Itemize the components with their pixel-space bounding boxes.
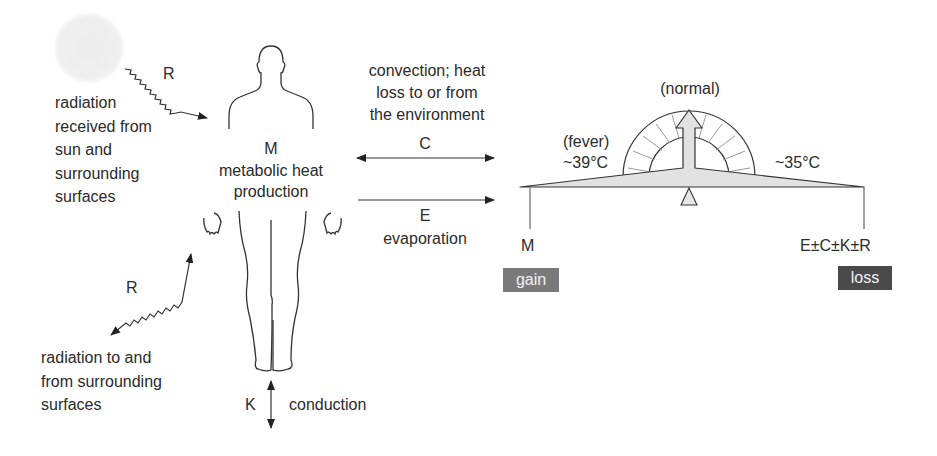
loss-badge: loss	[838, 266, 892, 290]
radiation-exchange-arrow	[111, 254, 191, 335]
low-temperature: ~35°C	[775, 152, 820, 173]
convection-symbol: C	[400, 133, 450, 154]
conduction-label: conduction	[289, 394, 366, 415]
convection-label: convection; heat loss to or from the env…	[350, 60, 504, 126]
metabolic-heat-label: metabolic heat production	[195, 160, 347, 202]
evaporation-label: evaporation	[355, 228, 495, 249]
fever-temperature: ~39°C	[563, 152, 608, 173]
fever-label: (fever)	[563, 131, 609, 152]
sun-radiation-label: radiation received from sun and surround…	[55, 91, 152, 209]
gain-symbol: M	[521, 235, 534, 256]
radiation-exchange-symbol: R	[126, 277, 138, 298]
evaporation-symbol: E	[400, 205, 450, 226]
normal-label: (normal)	[640, 78, 740, 99]
gain-badge: gain	[503, 268, 559, 292]
metabolic-symbol: M	[200, 138, 342, 159]
radiation-exchange-label: radiation to and from surrounding surfac…	[41, 346, 162, 417]
human-body-figure	[204, 46, 341, 371]
loss-symbols: E±C±K±R	[800, 235, 871, 256]
fulcrum-icon	[681, 188, 697, 205]
sun-icon	[54, 13, 124, 83]
conduction-symbol: K	[245, 394, 256, 415]
sun-radiation-symbol: R	[163, 63, 175, 84]
